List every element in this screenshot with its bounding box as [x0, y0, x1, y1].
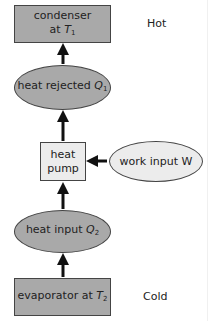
flow-arrows: [0, 0, 209, 321]
